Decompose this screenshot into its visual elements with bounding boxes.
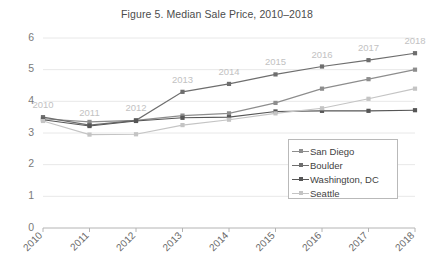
y-axis-tick-label: 6 — [28, 31, 34, 43]
legend-item-label: Seattle — [309, 188, 340, 199]
data-point-marker — [273, 101, 277, 105]
chart-legend: San DiegoBoulderWashington, DCSeattle — [288, 139, 398, 199]
legend-item[interactable]: Seattle — [289, 186, 397, 200]
data-point-marker — [227, 82, 231, 86]
data-point-marker — [227, 118, 231, 122]
data-point-marker — [180, 90, 184, 94]
x-axis-tick-label: 2016 — [300, 229, 324, 253]
data-point-marker — [134, 119, 138, 123]
x-axis-tick-labels: 201020112012201320142015201620172018 — [21, 229, 417, 253]
data-point-marker — [180, 116, 184, 120]
legend-item[interactable]: San Diego — [289, 144, 397, 158]
y-axis-tick-label: 0 — [28, 221, 34, 233]
x-axis-tick-label: 2013 — [160, 229, 184, 253]
data-point-label: 2013 — [172, 74, 193, 85]
legend-swatch-icon — [292, 174, 309, 184]
data-point-marker — [413, 87, 417, 91]
y-axis-tick-labels: 0123456 — [28, 31, 34, 233]
legend-item[interactable]: Boulder — [289, 158, 397, 172]
data-point-marker — [366, 58, 370, 62]
data-point-marker — [273, 111, 277, 115]
data-point-marker — [366, 109, 370, 113]
x-axis-tick-label: 2010 — [21, 229, 45, 253]
legend-item[interactable]: Washington, DC — [289, 172, 397, 186]
data-point-label: 2015 — [265, 56, 286, 67]
x-axis-tick-label: 2011 — [68, 229, 91, 252]
data-point-marker — [273, 72, 277, 76]
data-point-label: 2018 — [404, 35, 425, 46]
data-point-marker — [320, 64, 324, 68]
data-point-labels: 201020112012201320142015201620172018 — [32, 35, 425, 118]
data-point-label: 2014 — [218, 66, 239, 77]
x-axis-tick-label: 2018 — [393, 229, 417, 253]
chart-figure: Figure 5. Median Sale Price, 2010–2018 0… — [0, 0, 434, 272]
data-point-marker — [366, 97, 370, 101]
data-point-label: 2016 — [311, 49, 332, 60]
x-axis-tick-label: 2017 — [346, 229, 370, 253]
data-point-marker — [366, 77, 370, 81]
x-axis-tick-label: 2012 — [114, 229, 138, 253]
x-axis-tick-label: 2014 — [207, 229, 231, 253]
data-point-marker — [41, 119, 45, 123]
data-point-marker — [320, 106, 324, 110]
data-point-label: 2010 — [32, 99, 53, 110]
data-point-label: 2012 — [125, 102, 146, 113]
data-point-marker — [320, 87, 324, 91]
y-axis-tick-label: 2 — [28, 157, 34, 169]
data-point-marker — [134, 132, 138, 136]
legend-item-label: Washington, DC — [309, 174, 379, 185]
data-point-marker — [87, 124, 91, 128]
data-point-marker — [87, 132, 91, 136]
legend-swatch-icon — [292, 160, 309, 170]
y-axis-tick-label: 5 — [28, 62, 34, 74]
data-point-marker — [227, 111, 231, 115]
data-point-marker — [413, 108, 417, 112]
data-point-marker — [413, 68, 417, 72]
data-point-label: 2017 — [358, 42, 379, 53]
data-series-layer — [41, 51, 417, 137]
legend-swatch-icon — [292, 188, 309, 198]
legend-swatch-icon — [292, 146, 309, 156]
y-axis-tick-label: 1 — [28, 189, 34, 201]
data-point-marker — [413, 51, 417, 55]
data-point-marker — [180, 123, 184, 127]
y-axis-tick-label: 3 — [28, 126, 34, 138]
data-point-label: 2011 — [79, 107, 99, 118]
x-axis-tick-label: 2015 — [253, 229, 277, 253]
legend-item-label: San Diego — [309, 146, 354, 157]
chart-plot-area: 0123456 20102011201220132014201520162017… — [0, 0, 434, 272]
legend-item-label: Boulder — [309, 160, 343, 171]
